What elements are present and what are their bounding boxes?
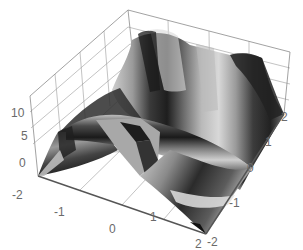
x-tick: -1 xyxy=(54,205,65,219)
surface-plot-3d: -2 -1 0 1 2 -2 -1 0 1 2 0 5 10 xyxy=(0,0,303,250)
y-tick: -2 xyxy=(207,235,218,249)
z-tick: 0 xyxy=(19,156,26,170)
z-tick: 5 xyxy=(21,129,28,143)
x-tick: 1 xyxy=(150,210,157,224)
y-tick: -1 xyxy=(229,196,240,210)
x-tick: 2 xyxy=(195,237,202,250)
x-tick: 0 xyxy=(109,222,116,236)
surface xyxy=(38,29,284,234)
z-axis-ticks: 0 5 10 xyxy=(11,106,28,170)
z-tick: 10 xyxy=(11,106,25,120)
y-tick: 2 xyxy=(281,110,288,124)
y-tick: 1 xyxy=(265,135,272,149)
x-tick: -2 xyxy=(12,188,23,202)
y-tick: 0 xyxy=(247,161,254,175)
